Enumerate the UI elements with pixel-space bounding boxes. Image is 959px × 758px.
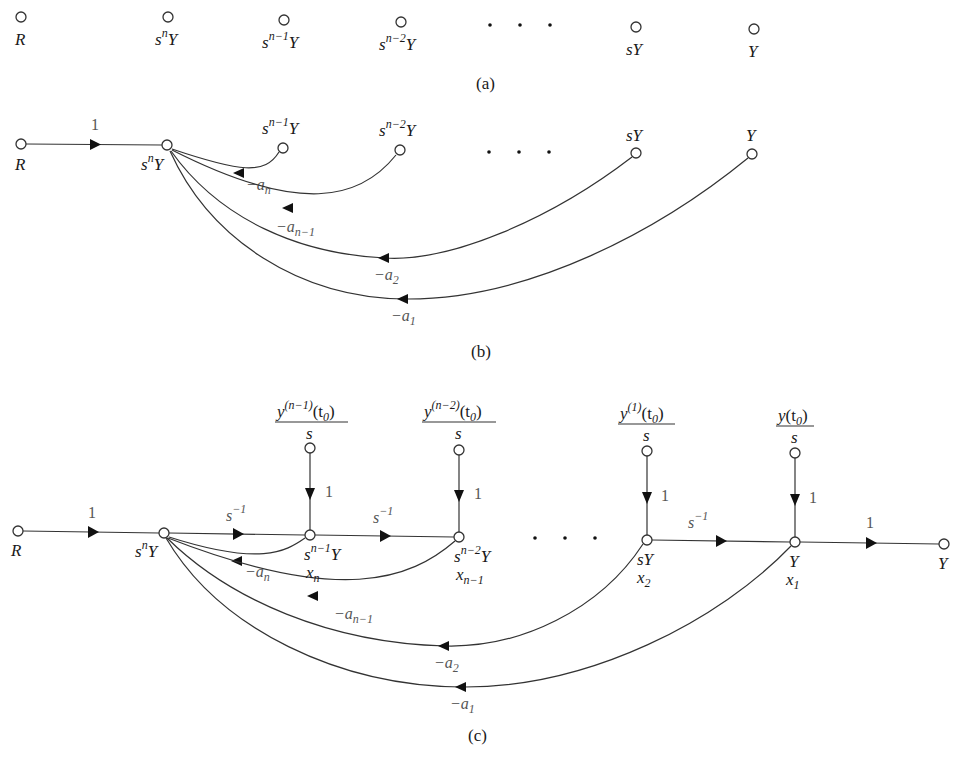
node-snY (163, 12, 173, 22)
panel-a: R snY sn−1Y sn−2Y sY Y (a) (14, 12, 759, 93)
label-xn1: xn−1 (455, 565, 484, 587)
node-ic-n2 (454, 445, 464, 455)
node-sn2Y (395, 145, 405, 155)
arrow-right-icon (716, 535, 727, 547)
label-sY: sY (637, 550, 655, 569)
panel-b: 1 −an −an−1 −a2 −a1 R snY sn−1Y sn−2Y sY (14, 115, 757, 361)
label-snY: snY (135, 538, 159, 561)
node-snY (162, 140, 172, 150)
label-sY: sY (626, 40, 644, 59)
label-sn2Y: sn−2Y (454, 543, 492, 566)
gain-integrator-2: s−1 (373, 504, 393, 526)
node-sY (642, 535, 652, 545)
node-Y (749, 24, 759, 34)
gain-output: 1 (866, 514, 874, 531)
edge-feedback-an1 (172, 150, 396, 194)
edge-feedback-a1 (166, 538, 791, 687)
gain-forward: 1 (91, 116, 99, 133)
arrow-left-icon (233, 168, 244, 178)
label-Y: Y (748, 42, 759, 61)
node-Y-output (939, 539, 949, 549)
node-R (16, 12, 26, 22)
label-x2: x2 (636, 568, 651, 590)
arrow-right-icon (380, 530, 391, 542)
ellipsis-b (487, 150, 551, 154)
ic-label-n2: y(n−2)(t0) s (422, 398, 496, 443)
gain-ic-4: 1 (809, 489, 817, 506)
label-sY: sY (626, 126, 644, 145)
node-Y (790, 537, 800, 547)
ic-label-n1: y(n−1)(t0) s (275, 398, 348, 443)
node-sn1Y (279, 15, 289, 25)
node-sn2Y (396, 17, 406, 27)
node-sn1Y (305, 530, 315, 540)
node-sY (631, 22, 641, 32)
arrow-left-icon (307, 591, 318, 601)
node-sY (631, 148, 641, 158)
arrow-left-icon (455, 682, 466, 692)
arrow-right-icon (90, 139, 101, 150)
gain-ic-1: 1 (325, 483, 333, 500)
node-ic-0 (790, 448, 800, 458)
label-snY: snY (141, 151, 165, 174)
label-Y: Y (746, 126, 757, 145)
signal-flow-graph-figure: R snY sn−1Y sn−2Y sY Y (a) 1 −an −an−1 (0, 0, 959, 758)
svg-text:s: s (306, 424, 313, 443)
gain-a1: −a1 (450, 695, 475, 716)
gain-ic-3: 1 (661, 487, 669, 504)
node-snY (159, 528, 169, 538)
node-sn2Y (454, 532, 464, 542)
label-sn2Y: sn−2Y (379, 31, 417, 54)
caption-a: (a) (476, 74, 495, 93)
gain-input: 1 (88, 504, 96, 521)
node-R (13, 526, 23, 536)
node-ic-n1 (305, 443, 315, 453)
label-sn1Y: sn−1Y (304, 541, 342, 564)
arrow-right-icon (88, 526, 99, 538)
label-R: R (14, 30, 26, 49)
label-Y: Y (789, 552, 800, 571)
label-sn1Y: sn−1Y (262, 115, 300, 138)
arrow-down-icon (642, 492, 652, 504)
svg-text:s: s (455, 424, 462, 443)
panel-c: 1 s−1 s−1 s−1 1 1 1 1 1 y(n−1)(t0) s (10, 398, 949, 745)
svg-text:y(n−1)(t0): y(n−1)(t0) (275, 398, 335, 424)
ellipsis-c (533, 536, 597, 540)
gain-an: −an (246, 176, 271, 197)
arrow-left-icon (378, 253, 389, 263)
gain-integrator-n: s−1 (688, 509, 708, 531)
gain-ic-2: 1 (474, 485, 482, 502)
svg-text:y(1)(t0): y(1)(t0) (618, 400, 664, 426)
svg-text:y(t0): y(t0) (776, 406, 808, 428)
node-R (16, 139, 26, 149)
arrow-left-icon (397, 294, 408, 304)
caption-b: (b) (471, 342, 491, 361)
svg-text:s: s (643, 426, 650, 445)
label-sn1Y: sn−1Y (262, 29, 300, 52)
ic-label-1: y(1)(t0) s (618, 400, 675, 445)
svg-text:y(n−2)(t0): y(n−2)(t0) (422, 398, 482, 424)
node-ic-1 (642, 446, 652, 456)
arrow-left-icon (282, 203, 293, 213)
arrow-down-icon (454, 490, 464, 502)
gain-an1: −an−1 (334, 605, 373, 626)
gain-an: −an (245, 563, 270, 584)
svg-text:s: s (791, 428, 798, 447)
caption-c: (c) (468, 726, 487, 745)
label-R: R (10, 541, 22, 560)
ic-label-0: y(t0) s (776, 406, 814, 447)
label-x1: x1 (785, 570, 800, 592)
label-xn: xn (305, 563, 320, 585)
label-Y-output: Y (938, 554, 949, 573)
arrow-down-icon (305, 488, 315, 500)
arrow-down-icon (790, 494, 800, 506)
gain-a1: −a1 (391, 307, 416, 328)
gain-a2: −a2 (374, 266, 399, 287)
node-Y (747, 149, 757, 159)
label-sn2Y: sn−2Y (379, 117, 417, 140)
ellipsis-a (488, 23, 552, 27)
arrow-right-icon (866, 537, 877, 549)
gain-a2: −a2 (434, 654, 459, 675)
arrow-right-icon (233, 528, 244, 540)
edge-feedback-a2 (167, 538, 643, 646)
